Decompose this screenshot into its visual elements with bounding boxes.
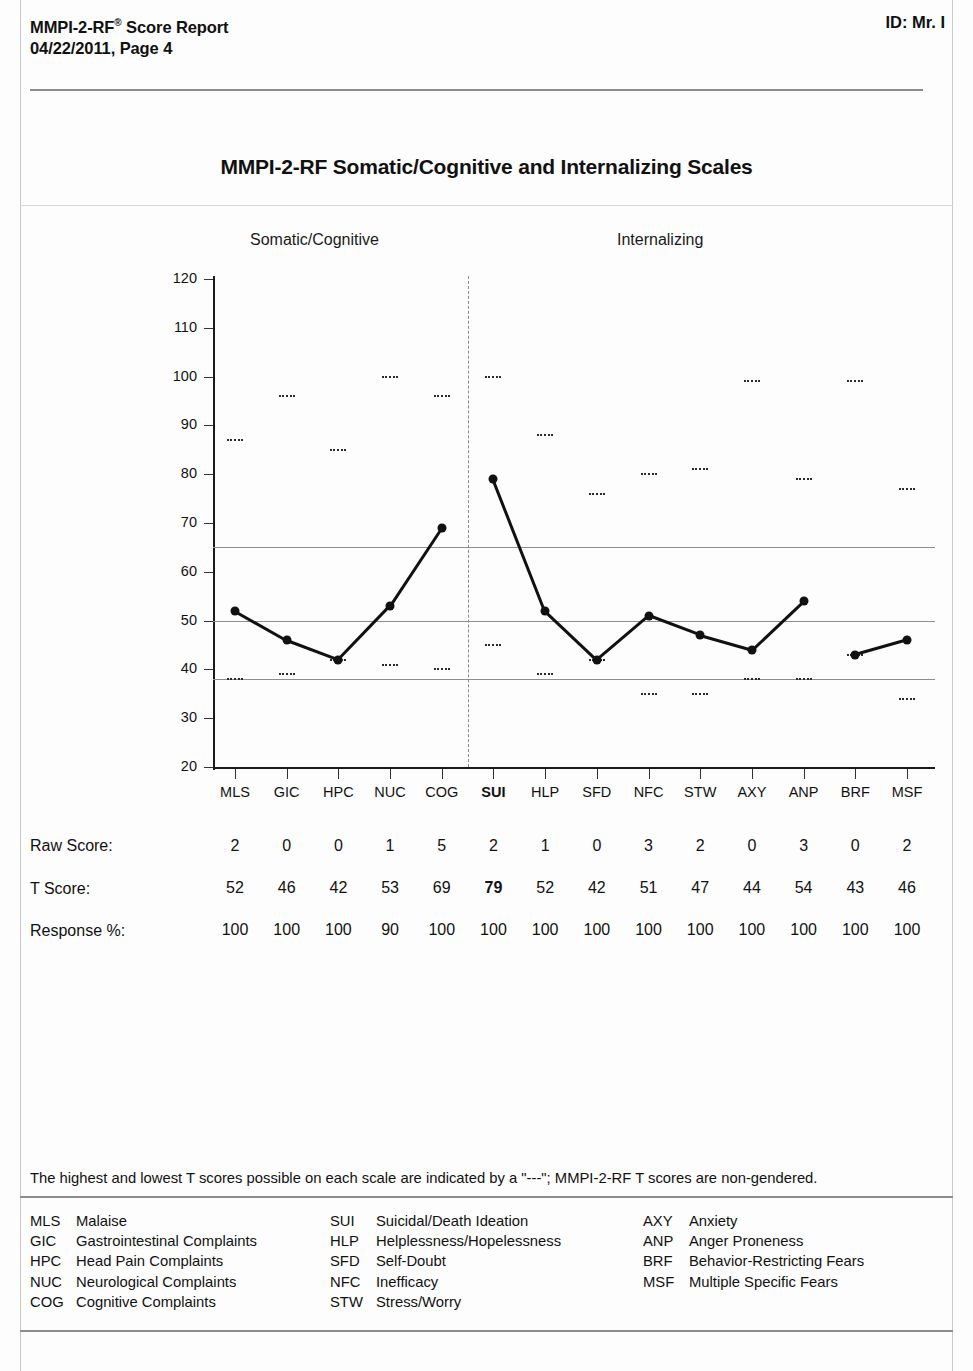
y-axis-tick [204,328,213,329]
legend-name: Anger Proneness [689,1231,803,1251]
legend-abbr: ANP [643,1231,689,1251]
min-marker-nuc [382,664,398,666]
min-marker-cog [434,668,450,670]
max-marker-nfc [641,473,657,475]
legend-abbr: SFD [330,1251,376,1271]
min-marker-stw [692,693,708,695]
min-marker-sui [485,644,501,646]
t-score-cell-brf: 43 [846,879,864,897]
group-label-internalizing: Internalizing [617,231,703,249]
max-marker-cog [434,395,450,397]
raw-score-cell-gic: 0 [282,837,291,855]
x-axis-tick [287,769,288,779]
data-point-brf [851,650,860,659]
y-axis-tick [204,523,213,524]
max-marker-hpc [330,449,346,451]
y-axis-label: 90 [157,416,197,432]
profile-line-segment [286,639,339,661]
data-point-sui [489,475,498,484]
legend-abbr: HLP [330,1231,376,1251]
legend-name: Multiple Specific Fears [689,1272,838,1292]
data-point-mls [231,606,240,615]
t-score-cell-msf: 46 [898,879,916,897]
legend-abbr: BRF [643,1251,689,1271]
raw-score-cell-nuc: 1 [386,837,395,855]
response-pct-cell-cog: 100 [428,921,455,939]
response-pct-cell-nuc: 90 [381,921,399,939]
header-divider [30,89,923,91]
x-axis-category-msf: MSF [892,784,923,800]
title-divider [20,205,953,206]
profile-chart: 2030405060708090100110120MLSGICHPCNUCCOG… [213,279,935,767]
legend-item-msf: MSFMultiple Specific Fears [643,1272,864,1292]
data-point-gic [282,636,291,645]
x-axis-category-stw: STW [684,784,716,800]
min-marker-mls [227,678,243,680]
x-axis-category-sui: SUI [481,784,505,800]
legend-item-sui: SUISuicidal/Death Ideation [330,1211,561,1231]
x-axis-category-hlp: HLP [531,784,559,800]
t-score-cell-mls: 52 [226,879,244,897]
data-point-nfc [644,611,653,620]
max-marker-sfd [589,493,605,495]
data-point-stw [696,631,705,640]
raw-score-cell-sui: 2 [489,837,498,855]
legend-column-internalizing-a: SUISuicidal/Death IdeationHLPHelplessnes… [330,1211,561,1312]
y-axis [213,276,215,770]
reference-line-65 [213,547,935,548]
legend-item-cog: COGCognitive Complaints [30,1292,257,1312]
x-axis-tick [700,769,701,779]
legend-abbr: MLS [30,1211,76,1231]
response-pct-cell-hpc: 100 [325,921,352,939]
raw-score-label: Raw Score: [30,837,113,855]
y-axis-label: 120 [157,270,197,286]
report-page: MMPI-2-RF® Score Report 04/22/2011, Page… [0,0,973,1371]
min-marker-anp [796,678,812,680]
response-pct-cell-anp: 100 [790,921,817,939]
x-axis-category-axy: AXY [737,784,766,800]
data-point-axy [747,645,756,654]
raw-score-cell-stw: 2 [696,837,705,855]
response-pct-cell-nfc: 100 [635,921,662,939]
response-pct-cell-gic: 100 [273,921,300,939]
response-pct-cell-msf: 100 [894,921,921,939]
response-pct-cell-stw: 100 [687,921,714,939]
legend-abbr: COG [30,1292,76,1312]
group-label-somatic-cognitive: Somatic/Cognitive [250,231,379,249]
raw-score-cell-axy: 0 [747,837,756,855]
max-marker-hlp [537,434,553,436]
chart-title: MMPI-2-RF Somatic/Cognitive and Internal… [0,155,973,179]
legend-abbr: MSF [643,1272,689,1292]
legend-item-axy: AXYAnxiety [643,1211,864,1231]
legend-item-stw: STWStress/Worry [330,1292,561,1312]
chart-footnote: The highest and lowest T scores possible… [30,1170,817,1186]
max-marker-sui [485,376,501,378]
y-axis-tick [204,621,213,622]
profile-line-segment [751,600,804,651]
legend-item-brf: BRFBehavior-Restricting Fears [643,1251,864,1271]
legend-abbr: AXY [643,1211,689,1231]
max-marker-anp [796,478,812,480]
t-score-cell-nfc: 51 [640,879,658,897]
max-marker-gic [279,395,295,397]
x-axis-category-nfc: NFC [634,784,664,800]
t-score-cell-sfd: 42 [588,879,606,897]
legend-name: Gastrointestinal Complaints [76,1231,257,1251]
legend-name: Self-Doubt [376,1251,446,1271]
legend-name: Anxiety [689,1211,738,1231]
response-pct-label: Response %: [30,922,125,940]
response-pct-cell-brf: 100 [842,921,869,939]
report-title-block: MMPI-2-RF® Score Report 04/22/2011, Page… [30,12,229,59]
data-point-anp [799,597,808,606]
reference-line-38 [213,679,935,680]
legend-item-hlp: HLPHelplessness/Hopelessness [330,1231,561,1251]
data-point-sfd [592,655,601,664]
page-bottom-divider [20,1330,953,1332]
max-marker-nuc [382,376,398,378]
x-axis-category-sfd: SFD [582,784,611,800]
legend-abbr: SUI [330,1211,376,1231]
legend-name: Cognitive Complaints [76,1292,216,1312]
legend-name: Stress/Worry [376,1292,461,1312]
y-axis-tick [204,377,213,378]
x-axis-category-nuc: NUC [374,784,405,800]
